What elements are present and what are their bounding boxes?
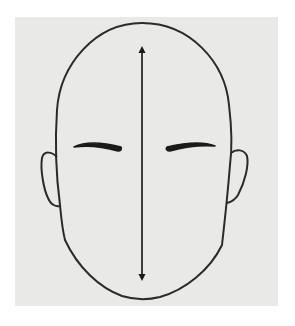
face-diagram bbox=[0, 0, 295, 326]
arrow-head-down-icon bbox=[139, 274, 146, 281]
head-outline bbox=[56, 23, 231, 299]
arrow-head-up-icon bbox=[139, 46, 146, 53]
right-eyebrow bbox=[166, 143, 215, 151]
left-eyebrow bbox=[74, 143, 121, 151]
vertical-double-arrow bbox=[139, 46, 146, 281]
